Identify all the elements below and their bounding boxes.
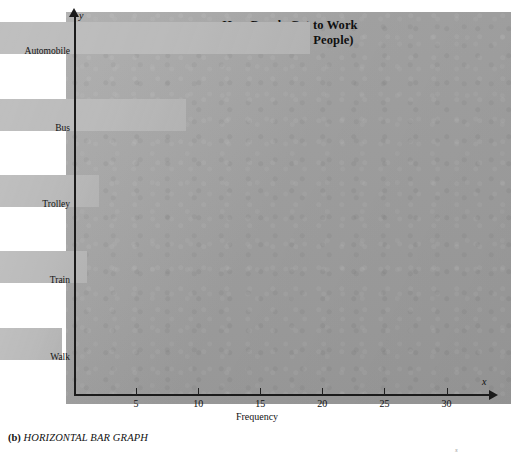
y-axis-category-labels: AutomobileBusTrolleyTrainWalk	[4, 14, 70, 396]
x-axis-title: Frequency	[0, 411, 514, 422]
figure-page: How People Get to Work (A Survey of 60 P…	[0, 0, 514, 464]
x-tick-mark-5	[136, 388, 137, 395]
x-tick-mark-25	[384, 388, 385, 395]
y-axis-label-automobile: Automobile	[10, 46, 70, 56]
x-tick-label-15: 15	[245, 398, 275, 409]
x-tick-label-30: 30	[432, 398, 462, 409]
y-axis-label-train: Train	[10, 275, 70, 285]
figure-caption-label: (b)	[8, 432, 21, 443]
x-tick-label-25: 25	[369, 398, 399, 409]
x-tick-mark-30	[447, 388, 448, 395]
y-axis-label-trolley: Trolley	[10, 199, 70, 209]
y-axis-line	[74, 14, 76, 396]
x-axis-arrow-icon	[489, 390, 498, 400]
x-tick-label-5: 5	[121, 398, 151, 409]
y-axis-symbol: y	[79, 10, 83, 21]
scan-artifact-mark: s	[455, 446, 458, 454]
x-axis-symbol: x	[482, 376, 486, 387]
y-axis-label-bus: Bus	[10, 123, 70, 133]
x-tick-mark-15	[260, 388, 261, 395]
x-tick-label-20: 20	[307, 398, 337, 409]
x-tick-mark-10	[198, 388, 199, 395]
figure-caption-text: HORIZONTAL BAR GRAPH	[23, 432, 148, 443]
x-tick-mark-20	[322, 388, 323, 395]
y-axis-arrow-icon	[69, 8, 79, 17]
x-tick-label-10: 10	[183, 398, 213, 409]
y-axis-label-walk: Walk	[10, 352, 70, 362]
figure-caption: (b) HORIZONTAL BAR GRAPH	[8, 432, 148, 443]
